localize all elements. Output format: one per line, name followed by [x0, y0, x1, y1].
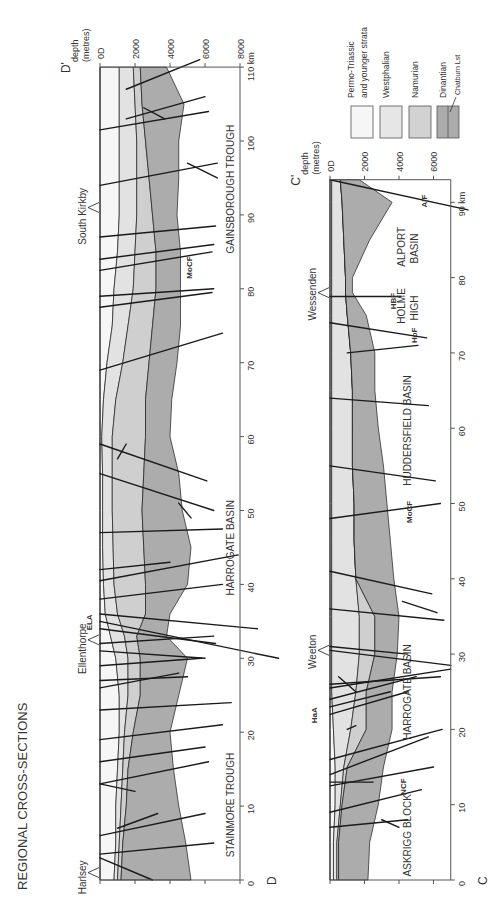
cross-section-c: 0D200040006000depth(metres)0102030405060… — [289, 141, 490, 886]
fault-label: AlF — [420, 195, 429, 208]
depth-tick-label: 6000 — [429, 152, 439, 172]
structure-label: ALPORT — [396, 227, 407, 267]
fault-label: MoCF — [405, 501, 414, 523]
fault-label: HaA — [310, 707, 319, 723]
km-tick-label: 90 — [246, 213, 256, 223]
structure-label: HARROGATE BASIN — [402, 644, 413, 739]
depth-axis-title: (metres) — [81, 29, 91, 63]
fault-label: HoF — [410, 327, 419, 343]
depth-tick-label: 4000 — [395, 152, 405, 172]
depth-axis-title: depth — [70, 40, 80, 63]
km-tick-label: 0 — [457, 881, 467, 886]
km-tick-label: 0 — [246, 881, 256, 886]
depth-tick-label: 4000 — [166, 39, 176, 59]
km-tick-label: 40 — [246, 582, 256, 592]
depth-axis-title: depth — [300, 152, 310, 175]
km-tick-label: 30 — [246, 656, 256, 666]
section-end-label: C' — [289, 175, 303, 186]
km-tick-label: 70 — [246, 361, 256, 371]
km-tick-label: 10 — [246, 804, 256, 814]
cross-section-d: 0D2000400060008000depth(metres)010203040… — [59, 29, 279, 895]
structure-label: GAINSBOROUGH TROUGH — [225, 125, 236, 254]
legend-label: Namurian — [410, 61, 420, 98]
fault-line — [402, 601, 437, 612]
fault-label: MoCF — [185, 256, 194, 278]
depth-tick-label: 2000 — [360, 152, 370, 172]
fault-label: ELA — [85, 614, 94, 630]
legend-swatch — [351, 106, 373, 138]
km-tick-label: 80 — [457, 276, 467, 286]
section-start-label: D — [265, 876, 279, 885]
km-tick-label: 50 — [246, 508, 256, 518]
structure-label: HIGH — [409, 296, 420, 321]
structure-label: STAINMORE TROUGH — [225, 753, 236, 858]
legend: Permo-Triassicand younger strataWestphal… — [346, 27, 462, 138]
km-tick-label: 40 — [457, 577, 467, 587]
km-tick-label: 30 — [457, 652, 467, 662]
fault-label: NCF — [399, 778, 408, 795]
locality-label: South Kirkby — [77, 188, 88, 245]
structure-label: HUDDERSFIELD BASIN — [402, 375, 413, 486]
structure-label: ASKRIGG BLOCK — [402, 794, 413, 877]
depth-tick-label: 0D — [96, 47, 106, 59]
depth-tick-label: 2000 — [131, 39, 141, 59]
km-tick-label: 100 — [246, 136, 256, 151]
legend-label: Permo-Triassic — [346, 40, 356, 98]
locality-marker-icon — [318, 645, 329, 655]
depth-tick-label: 0D — [326, 160, 336, 172]
km-tick-label: 50 — [457, 501, 467, 511]
figure-title: REGIONAL CROSS-SECTIONS — [15, 702, 30, 890]
km-tick-label: 60 — [246, 435, 256, 445]
cross-section-diagram: REGIONAL CROSS-SECTIONS Permo-Triassican… — [0, 0, 497, 907]
km-tick-label: 110 km — [246, 52, 256, 81]
km-tick-label: 80 — [246, 287, 256, 297]
depth-axis-title: (metres) — [311, 141, 321, 175]
legend-label: and younger strata — [359, 27, 369, 98]
legend-sublabel: Chatburn Lst — [454, 55, 461, 95]
km-tick-label: 90 km — [457, 192, 467, 217]
locality-label: Harlsey — [77, 860, 88, 894]
legend-swatch — [380, 106, 402, 138]
km-tick-label: 10 — [457, 803, 467, 813]
legend-swatch — [409, 106, 431, 138]
legend-label: Westphalian — [381, 51, 391, 98]
depth-tick-label: 6000 — [201, 39, 211, 59]
locality-marker-icon — [88, 635, 99, 645]
locality-marker-icon — [88, 868, 99, 878]
depth-tick-label: 8000 — [236, 39, 246, 59]
locality-label: Wessenden — [307, 268, 318, 321]
locality-marker-icon — [318, 288, 329, 298]
section-end-label: D' — [59, 62, 73, 73]
legend-label: Dinantian — [438, 62, 448, 98]
fault-label: HBF — [389, 293, 398, 310]
km-tick-label: 60 — [457, 426, 467, 436]
locality-marker-icon — [88, 203, 99, 213]
structure-label: HARROGATE BASIN — [225, 500, 236, 595]
km-tick-label: 20 — [246, 730, 256, 740]
structure-label: BASIN — [409, 233, 420, 263]
km-tick-label: 70 — [457, 351, 467, 361]
section-start-label: C — [476, 876, 490, 885]
km-tick-label: 20 — [457, 727, 467, 737]
locality-label: Weeton — [307, 635, 318, 669]
